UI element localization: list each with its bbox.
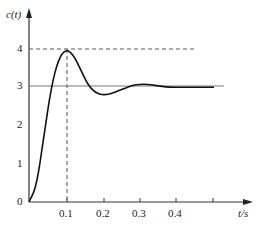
x-axis-arrow-icon <box>243 199 253 205</box>
y-tick-4: 4 <box>17 42 23 54</box>
y-axis-label: c(t) <box>6 8 21 20</box>
response-curve <box>29 51 214 202</box>
y-tick-1: 1 <box>17 157 23 169</box>
x-tick-0.2: 0.2 <box>96 207 110 219</box>
step-response-chart: c(t) 4 3 2 1 0 0.1 0.2 0.3 0.4 t/s <box>0 0 261 227</box>
y-tick-0: 0 <box>17 195 23 207</box>
y-tick-3: 3 <box>17 79 23 91</box>
y-axis-arrow-icon <box>26 8 32 18</box>
x-tick-0.4: 0.4 <box>168 207 182 219</box>
x-axis-label: t/s <box>238 207 248 219</box>
x-tick-0.3: 0.3 <box>132 207 146 219</box>
x-tick-0.1: 0.1 <box>59 207 73 219</box>
y-tick-2: 2 <box>17 118 23 130</box>
plot-area <box>0 0 261 227</box>
